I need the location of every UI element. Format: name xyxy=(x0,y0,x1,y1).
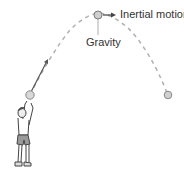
diagram-canvas: Inertial motion Gravity xyxy=(0,0,184,179)
launch-ball xyxy=(26,91,34,99)
landing-ball xyxy=(164,91,172,99)
inertial-motion-arrow xyxy=(103,13,116,18)
projectile-diagram: Inertial motion Gravity xyxy=(0,0,184,179)
gravity-label: Gravity xyxy=(86,36,121,48)
thrower-figure xyxy=(15,101,33,166)
trajectory-path xyxy=(30,13,168,95)
inertial-motion-label: Inertial motion xyxy=(120,8,184,20)
apex-ball xyxy=(94,11,102,19)
launch-velocity-arrow xyxy=(31,59,48,92)
